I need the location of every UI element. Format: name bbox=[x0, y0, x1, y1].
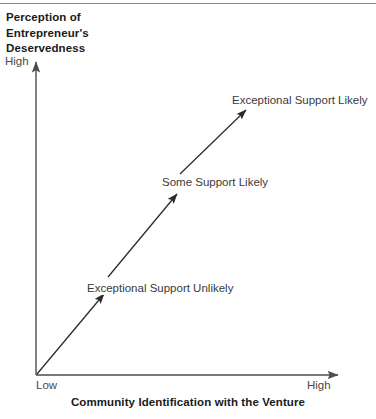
trend-segment-2 bbox=[108, 194, 177, 277]
plot-area bbox=[0, 0, 376, 419]
y-axis-title-line-2: Entrepreneur's bbox=[6, 26, 89, 42]
x-axis-title: Community Identification with the Ventur… bbox=[0, 396, 376, 408]
trend-segment-1 bbox=[37, 294, 104, 374]
annotation-exceptional-support-likely: Exceptional Support Likely bbox=[229, 93, 371, 107]
annotation-exceptional-support-unlikely: Exceptional Support Unlikely bbox=[84, 281, 236, 295]
x-axis-high-tick-label: High bbox=[307, 379, 331, 391]
annotation-some-support-likely: Some Support Likely bbox=[159, 175, 271, 189]
trend-segment-3 bbox=[180, 110, 246, 174]
y-axis-high-tick-label: High bbox=[5, 55, 29, 67]
y-axis-title: Perception of Entrepreneur's Deservednes… bbox=[6, 10, 89, 57]
x-axis-low-tick-label: Low bbox=[36, 379, 57, 391]
y-axis-title-line-1: Perception of bbox=[6, 10, 89, 26]
chart-figure: Perception of Entrepreneur's Deservednes… bbox=[0, 0, 376, 419]
